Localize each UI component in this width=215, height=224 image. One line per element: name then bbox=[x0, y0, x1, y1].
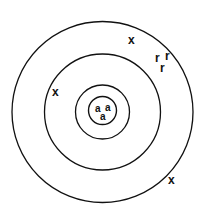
shell-electron-label: x bbox=[168, 174, 175, 186]
nucleus-particle-label: a bbox=[100, 112, 106, 122]
radius-label: r bbox=[155, 52, 160, 64]
shell-electron-label: x bbox=[128, 34, 135, 46]
shell-electron-label: x bbox=[52, 86, 59, 98]
radius-label: r bbox=[160, 62, 165, 74]
radius-label: r bbox=[165, 50, 170, 62]
atomic-shell-diagram: a a a x x x r r r bbox=[0, 0, 215, 224]
